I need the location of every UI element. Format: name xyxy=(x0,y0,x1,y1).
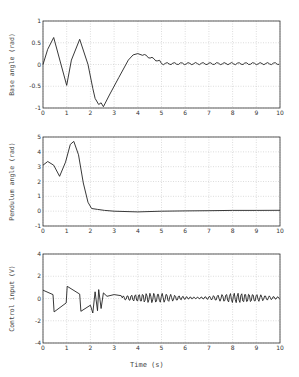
x-tick-label: 1 xyxy=(65,109,69,116)
x-tick-label: 7 xyxy=(207,227,211,234)
x-tick-label: 2 xyxy=(88,227,92,234)
y-tick-label: 4 xyxy=(37,250,41,257)
x-tick-label: 6 xyxy=(183,344,187,351)
y-tick-label: -1 xyxy=(35,222,41,229)
data-line xyxy=(43,38,279,107)
y-tick-label: 2 xyxy=(37,178,41,185)
x-tick-label: 5 xyxy=(160,109,164,116)
y-tick-label: 0.5 xyxy=(31,39,41,46)
x-tick-label: 3 xyxy=(112,109,116,116)
x-tick-label: 4 xyxy=(136,109,140,116)
x-tick-label: 3 xyxy=(112,227,116,234)
subplot-3: 012345678910-4-2024Control input (V) xyxy=(8,250,284,351)
x-tick-label: 0 xyxy=(41,109,45,116)
x-tick-label: 5 xyxy=(160,344,164,351)
y-tick-label: -1 xyxy=(35,104,41,111)
x-tick-label: 2 xyxy=(88,109,92,116)
subplot-2: 012345678910-1012345Pendulum angle (rad) xyxy=(8,133,284,234)
x-axis-label: Time (s) xyxy=(130,361,164,369)
x-tick-label: 6 xyxy=(183,109,187,116)
y-tick-label: 0 xyxy=(37,207,41,214)
y-tick-label: -2 xyxy=(35,317,41,324)
x-tick-label: 6 xyxy=(183,227,187,234)
y-tick-label: 2 xyxy=(37,272,41,279)
y-tick-label: -4 xyxy=(35,339,41,346)
x-tick-label: 9 xyxy=(254,344,258,351)
x-tick-label: 9 xyxy=(254,109,258,116)
figure-canvas: 012345678910-1-0.500.51Base angle (rad)0… xyxy=(0,0,299,377)
subplot-1: 012345678910-1-0.500.51Base angle (rad) xyxy=(8,17,284,116)
y-tick-label: 1 xyxy=(37,192,41,199)
y-tick-label: 3 xyxy=(37,163,41,170)
x-tick-label: 1 xyxy=(65,227,69,234)
x-tick-label: 1 xyxy=(65,344,69,351)
y-axis-label: Pendulum angle (rad) xyxy=(8,142,16,220)
y-tick-label: 4 xyxy=(37,148,41,155)
x-tick-label: 4 xyxy=(136,227,140,234)
x-tick-label: 8 xyxy=(231,109,235,116)
x-tick-label: 7 xyxy=(207,109,211,116)
x-tick-label: 10 xyxy=(276,109,284,116)
x-tick-label: 9 xyxy=(254,227,258,234)
x-tick-label: 0 xyxy=(41,344,45,351)
y-tick-label: 0 xyxy=(37,61,41,68)
x-tick-label: 8 xyxy=(231,344,235,351)
y-tick-label: 5 xyxy=(37,133,41,140)
x-tick-label: 3 xyxy=(112,344,116,351)
y-axis-label: Control input (V) xyxy=(8,265,16,332)
y-tick-label: 1 xyxy=(37,17,41,24)
x-tick-label: 5 xyxy=(160,227,164,234)
y-tick-label: 0 xyxy=(37,295,41,302)
x-tick-label: 7 xyxy=(207,344,211,351)
x-tick-label: 8 xyxy=(231,227,235,234)
x-tick-label: 4 xyxy=(136,344,140,351)
x-tick-label: 10 xyxy=(276,227,284,234)
y-tick-label: -0.5 xyxy=(29,82,41,89)
x-tick-label: 2 xyxy=(88,344,92,351)
x-tick-label: 0 xyxy=(41,227,45,234)
x-tick-label: 10 xyxy=(276,344,284,351)
y-axis-label: Base angle (rad) xyxy=(8,33,16,96)
